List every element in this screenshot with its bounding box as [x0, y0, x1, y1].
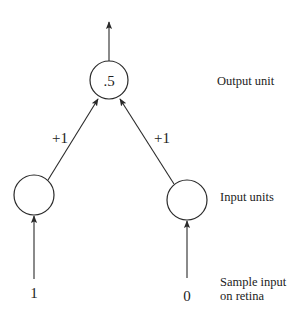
- right-input-unit-node: [167, 180, 207, 220]
- sample-input-label-line2: on retina: [220, 289, 265, 303]
- network-diagram: .5 +1 +1 1 0 Output unit Input units Sam…: [0, 0, 303, 313]
- input-units-label: Input units: [220, 190, 274, 204]
- left-sample-input-value: 1: [30, 285, 38, 301]
- output-unit-label: Output unit: [217, 74, 275, 88]
- right-weight-label: +1: [154, 130, 170, 146]
- left-input-unit-node: [14, 175, 54, 215]
- output-unit-value: .5: [103, 73, 114, 89]
- left-weight-label: +1: [52, 130, 68, 146]
- sample-input-label-line1: Sample input: [220, 275, 287, 289]
- right-sample-input-value: 0: [183, 288, 191, 304]
